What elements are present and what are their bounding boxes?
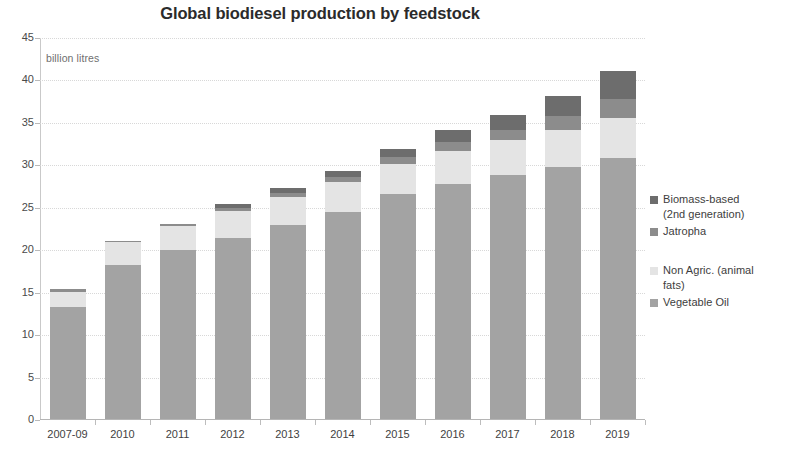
- y-axis-tick-labels: 051015202530354045: [0, 38, 34, 420]
- bar-group[interactable]: [600, 37, 636, 419]
- bar-segment[interactable]: [215, 211, 251, 238]
- y-tick-label: 0: [6, 414, 34, 425]
- legend-item[interactable]: Non Agric. (animalfats): [650, 263, 786, 293]
- x-tick-label: 2018: [535, 428, 590, 440]
- legend-item[interactable]: Biomass-based(2nd generation): [650, 192, 786, 222]
- bar-segment[interactable]: [215, 238, 251, 419]
- bar-segment[interactable]: [160, 250, 196, 419]
- bar-segment[interactable]: [435, 184, 471, 419]
- legend-item-label: Non Agric. (animalfats): [663, 263, 754, 293]
- bar-segment[interactable]: [105, 265, 141, 419]
- bar-segment[interactable]: [435, 142, 471, 150]
- y-tick-mark: [35, 208, 40, 209]
- y-tick-label: 45: [6, 32, 34, 43]
- bar-segment[interactable]: [50, 307, 86, 419]
- legend-swatch-icon: [650, 196, 658, 204]
- chart-title: Global biodiesel production by feedstock: [0, 4, 640, 23]
- bar-segment[interactable]: [105, 242, 141, 264]
- legend-item[interactable]: Jatropha: [650, 224, 786, 239]
- bar-segment[interactable]: [380, 149, 416, 157]
- x-tick-mark: [590, 420, 591, 425]
- x-tick-mark: [425, 420, 426, 425]
- bar-segment[interactable]: [490, 115, 526, 129]
- bar-segment[interactable]: [215, 204, 251, 207]
- bar-segment[interactable]: [380, 164, 416, 195]
- y-tick-label: 15: [6, 287, 34, 298]
- bar-segment[interactable]: [325, 171, 361, 177]
- x-tick-mark: [645, 420, 646, 425]
- bar-segment[interactable]: [600, 99, 636, 118]
- y-axis-line: [40, 38, 41, 420]
- bar-segment[interactable]: [600, 71, 636, 99]
- bar-segment[interactable]: [435, 130, 471, 142]
- x-tick-mark: [95, 420, 96, 425]
- plot-area: [40, 38, 645, 420]
- bar-segment[interactable]: [545, 96, 581, 116]
- bar-segment[interactable]: [270, 193, 306, 197]
- bar-segment[interactable]: [270, 197, 306, 225]
- bar-group[interactable]: [105, 37, 141, 419]
- bar-segment[interactable]: [545, 130, 581, 167]
- bar-segment[interactable]: [325, 212, 361, 419]
- y-tick-mark: [35, 38, 40, 39]
- bar-segment[interactable]: [105, 241, 141, 243]
- bar-group[interactable]: [490, 37, 526, 419]
- bar-segment[interactable]: [160, 226, 196, 250]
- x-tick-label: 2007-09: [40, 428, 95, 440]
- y-tick-mark: [35, 378, 40, 379]
- y-tick-mark: [35, 80, 40, 81]
- y-tick-label: 5: [6, 372, 34, 383]
- y-tick-label: 25: [6, 202, 34, 213]
- bar-segment[interactable]: [490, 175, 526, 419]
- y-tick-mark: [35, 335, 40, 336]
- bar-group[interactable]: [435, 37, 471, 419]
- bar-segment[interactable]: [50, 292, 86, 307]
- legend-swatch-icon: [650, 228, 658, 236]
- bar-group[interactable]: [160, 37, 196, 419]
- y-tick-mark: [35, 420, 40, 421]
- x-tick-mark: [480, 420, 481, 425]
- bar-segment[interactable]: [600, 158, 636, 419]
- bar-segment[interactable]: [600, 118, 636, 159]
- bar-segment[interactable]: [215, 208, 251, 211]
- y-tick-mark: [35, 165, 40, 166]
- x-tick-label: 2012: [205, 428, 260, 440]
- bar-segment[interactable]: [160, 224, 196, 227]
- y-tick-label: 20: [6, 244, 34, 255]
- bar-segment[interactable]: [380, 194, 416, 419]
- x-tick-label: 2016: [425, 428, 480, 440]
- x-tick-label: 2017: [480, 428, 535, 440]
- bar-segment[interactable]: [435, 151, 471, 184]
- bar-segment[interactable]: [545, 116, 581, 130]
- bar-segment[interactable]: [490, 140, 526, 175]
- legend-item-label: Biomass-based(2nd generation): [663, 192, 745, 222]
- bar-segment[interactable]: [325, 177, 361, 182]
- x-tick-mark: [150, 420, 151, 425]
- legend-swatch-icon: [650, 267, 658, 275]
- bar-group[interactable]: [380, 37, 416, 419]
- bar-segment[interactable]: [545, 167, 581, 419]
- legend-swatch-icon: [650, 299, 658, 307]
- y-tick-mark: [35, 250, 40, 251]
- chart-legend: Biomass-based(2nd generation)JatrophaNon…: [650, 192, 786, 312]
- bar-segment[interactable]: [325, 182, 361, 212]
- y-tick-label: 35: [6, 117, 34, 128]
- bar-segment[interactable]: [270, 225, 306, 419]
- bar-segment[interactable]: [270, 188, 306, 193]
- x-tick-label: 2010: [95, 428, 150, 440]
- x-tick-label: 2015: [370, 428, 425, 440]
- bar-group[interactable]: [215, 37, 251, 419]
- legend-item[interactable]: Vegetable Oil: [650, 295, 786, 310]
- bar-segment[interactable]: [490, 130, 526, 140]
- bar-segment[interactable]: [380, 157, 416, 164]
- bar-group[interactable]: [270, 37, 306, 419]
- x-tick-label: 2014: [315, 428, 370, 440]
- legend-item-label: Jatropha: [663, 224, 706, 239]
- x-tick-mark: [260, 420, 261, 425]
- bar-segment[interactable]: [50, 289, 86, 292]
- bar-group[interactable]: [50, 37, 86, 419]
- bar-group[interactable]: [325, 37, 361, 419]
- legend-spacer: [650, 241, 786, 263]
- x-tick-label: 2011: [150, 428, 205, 440]
- bar-group[interactable]: [545, 37, 581, 419]
